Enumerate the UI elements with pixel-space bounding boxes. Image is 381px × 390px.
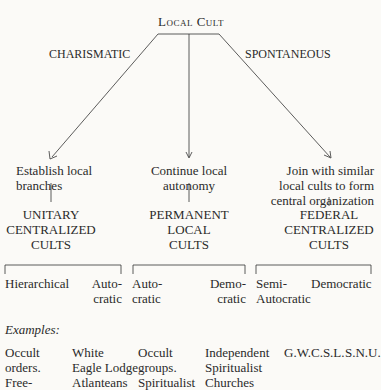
examples-col-2: White Eagle Lodge Atlanteans <box>72 345 138 390</box>
subtype-hierarchical: Hierarchical <box>5 276 69 291</box>
result-permanent: PERMANENT LOCAL CULTS <box>139 207 239 252</box>
examples-heading: Examples: <box>5 322 60 337</box>
root-label: Local Cult <box>158 14 224 30</box>
examples-col-6: S.N.U. <box>345 345 381 360</box>
path-label-charismatic: CHARISMATIC <box>49 47 130 62</box>
action-permanent: Continue local autonomy <box>139 163 239 193</box>
path-label-spontaneous: SPONTANEOUS <box>245 47 331 62</box>
examples-col-4: Independent Spiritualist Churches <box>205 345 269 390</box>
action-spontaneous: Join with similar local cults to form ce… <box>265 163 374 208</box>
subtype-permanent-democratic: Demo- cratic <box>200 276 246 306</box>
subtype-federal-democratic: Democratic <box>311 276 372 291</box>
subtype-permanent-autocratic: Auto- cratic <box>132 276 162 306</box>
examples-col-3: Occult groups. Spiritualist <box>138 345 195 390</box>
subtype-unitary-autocratic: Auto- cratic <box>80 276 122 306</box>
action-charismatic: Establish local branches <box>16 163 92 193</box>
examples-col-1: Occult orders. Free- <box>5 345 41 390</box>
subtype-semi-autocratic: Semi- Autocratic <box>256 276 311 306</box>
result-unitary: UNITARY CENTRALIZED CULTS <box>0 207 102 252</box>
result-federal: FEDERAL CENTRALIZED CULTS <box>279 207 379 252</box>
examples-col-5: G.W.C.S.L. <box>284 345 345 360</box>
